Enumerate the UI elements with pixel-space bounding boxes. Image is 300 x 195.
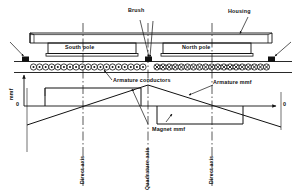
conductor-cross-icon [251, 64, 257, 70]
conductor-cross-icon [227, 64, 233, 70]
conductor-dot-icon [55, 64, 61, 70]
conductor-cross-icon [239, 64, 245, 70]
south-pole-label: South pole [65, 45, 94, 50]
armature-conductors-label: Armature conductors [113, 78, 171, 83]
conductor-dot-icon [73, 64, 79, 70]
armature-mmf-leader-line [189, 85, 213, 95]
armature-mmf-label: Armature mmf [213, 80, 252, 85]
figure-canvas: Brush Housing South pole North pole Arma… [0, 0, 300, 195]
conductor-cross-icon [221, 64, 227, 70]
conductor-cross-icon [196, 64, 202, 70]
conductor-cross-icon [184, 64, 190, 70]
conductor-cross-icon [263, 64, 269, 70]
brush-label: Brush [128, 8, 144, 13]
conductor-dot-icon [122, 64, 128, 70]
conductor-dot-icon [128, 64, 134, 70]
conductor-dot-icon [30, 64, 36, 70]
conductor-cross-icon [166, 64, 172, 70]
conductor-dot-icon [36, 64, 42, 70]
conductor-dot-icon [85, 64, 91, 70]
conductor-cross-icon [190, 64, 196, 70]
conductor-cross-icon [233, 64, 239, 70]
mmf-origin-label: 0 [16, 101, 19, 107]
armature-conductors-leader-line [104, 70, 112, 80]
housing-leader-line [240, 17, 248, 34]
conductor-dot-icon [140, 64, 146, 70]
magnet-mmf-leader-line [132, 89, 172, 124]
conductor-cross-icon [160, 64, 166, 70]
conductor-cross-icon [257, 64, 263, 70]
armature-conductors-left [30, 64, 146, 70]
conductor-dot-icon [109, 64, 115, 70]
conductor-cross-icon [203, 64, 209, 70]
conductor-dot-icon [97, 64, 103, 70]
conductor-dot-icon [43, 64, 49, 70]
quadrature-axis-label: Quadrature axis [145, 148, 150, 191]
direct-axis-label-right: Direct axis [209, 156, 214, 184]
direct-axis-label-left: Direct axis [80, 156, 85, 184]
conductor-dot-icon [79, 64, 85, 70]
brush-blocks [22, 57, 275, 62]
conductor-dot-icon [103, 64, 109, 70]
housing-label: Housing [228, 9, 251, 14]
conductor-dot-icon [61, 64, 67, 70]
brush-leader-lines [10, 20, 291, 57]
conductor-cross-icon [215, 64, 221, 70]
conductor-dot-icon [91, 64, 97, 70]
conductor-cross-icon [172, 64, 178, 70]
conductor-dot-icon [49, 64, 55, 70]
conductor-cross-icon [245, 64, 251, 70]
conductor-cross-icon [178, 64, 184, 70]
north-pole-label: North pole [182, 45, 210, 50]
mmf-axis-label: mmf [9, 88, 14, 100]
conductor-dot-icon [67, 64, 73, 70]
magnet-mmf-label: Magnet mmf [152, 127, 185, 132]
conductor-dot-icon [134, 64, 140, 70]
conductor-dot-icon [116, 64, 122, 70]
mmf-x-end-label: 0 [283, 101, 286, 107]
conductor-cross-icon [154, 64, 160, 70]
